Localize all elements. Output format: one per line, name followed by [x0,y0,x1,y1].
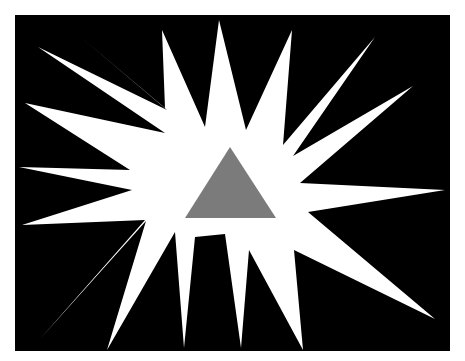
starburst-illustration [0,0,465,361]
